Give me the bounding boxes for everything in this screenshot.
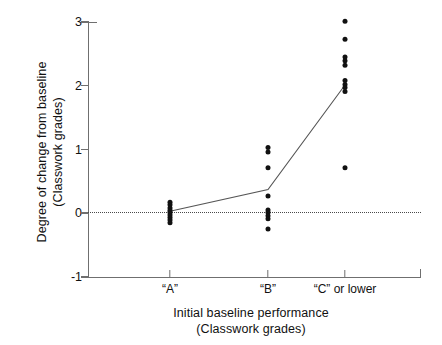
scatter-chart-figure: Degree of change from baseline (Classwor… [0,0,442,345]
datapoints-group [168,19,348,232]
datapoint [266,193,271,198]
datapoint [343,165,348,170]
datapoint [266,216,271,221]
datapoint [168,220,173,225]
x-tick-label-b: “B” [260,283,276,295]
datapoint [343,63,348,68]
x-tick-label-c: “C” or lower [314,283,377,295]
datapoint [266,165,271,170]
datapoint [343,19,348,24]
x-axis-title: Initial baseline performance (Classwork … [86,305,416,337]
datapoint [343,58,348,63]
datapoint [266,145,271,150]
datapoint [343,37,348,42]
x-tick-label-a: “A” [162,283,178,295]
datapoint [266,227,271,232]
group-mean-line [170,85,345,211]
datapoint [343,89,348,94]
datapoint [266,149,271,154]
